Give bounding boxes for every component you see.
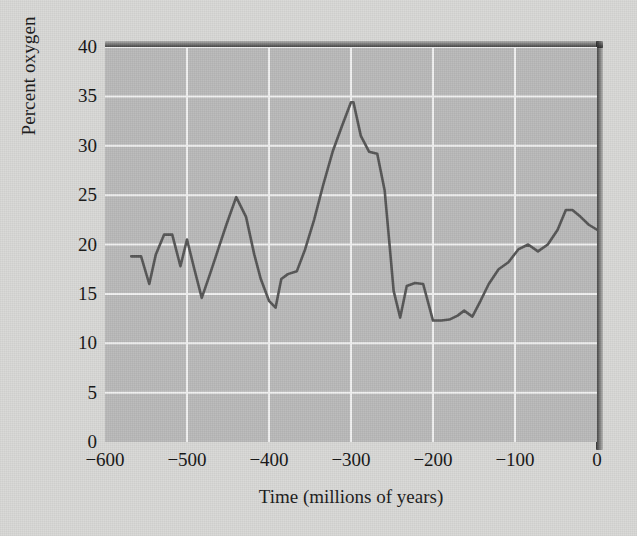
x-tick-label: −600 — [60, 449, 150, 471]
y-axis-title: Percent oxygen — [18, 0, 44, 176]
x-tick-label: −500 — [142, 449, 232, 471]
oxygen-over-time-chart: 0510152025303540 −600−500−400−300−200−10… — [0, 0, 637, 536]
x-tick-label: −400 — [224, 449, 314, 471]
x-tick-label: −100 — [470, 449, 560, 471]
x-axis-title: Time (millions of years) — [105, 486, 597, 508]
x-tick-label: 0 — [552, 449, 637, 471]
x-tick-label: −200 — [388, 449, 478, 471]
x-tick-label: −300 — [306, 449, 396, 471]
x-axis-ticks: −600−500−400−300−200−1000 — [0, 0, 637, 536]
